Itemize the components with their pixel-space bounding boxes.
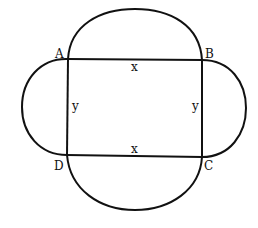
side-label-top: x: [131, 60, 138, 74]
vertex-label-b: B: [205, 47, 214, 61]
semicircle-right: [202, 60, 246, 157]
diagram-canvas: A B C D x x y y: [0, 0, 258, 228]
side-da: [67, 59, 68, 155]
vertex-label-c: C: [204, 159, 213, 173]
semicircle-bottom: [67, 155, 202, 210]
vertex-label-d: D: [54, 159, 64, 173]
diagram-figure: A B C D x x y y: [0, 0, 258, 228]
semicircle-top: [68, 9, 202, 60]
side-label-right: y: [191, 99, 199, 113]
side-label-left: y: [71, 99, 79, 113]
side-label-bottom: x: [131, 142, 138, 156]
vertex-label-a: A: [54, 47, 64, 61]
semicircle-left: [22, 59, 68, 155]
